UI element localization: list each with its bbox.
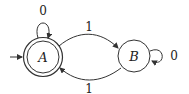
edge-b-to-a-label: 1 [85,82,93,94]
edge-b-to-a [60,68,121,80]
loop-a-label: 0 [39,4,47,18]
state-a-label: A [37,50,47,65]
state-b-label: B [128,49,139,64]
edge-a-to-b [59,34,118,48]
loop-b [150,50,162,63]
state-b: B [118,40,150,72]
loop-b-label: 0 [170,49,178,63]
loop-a [37,23,49,38]
edge-a-to-b-label: 1 [85,20,93,34]
state-a: A [24,38,63,77]
automaton-diagram: A 0 1 1 B 0 [0,0,189,94]
